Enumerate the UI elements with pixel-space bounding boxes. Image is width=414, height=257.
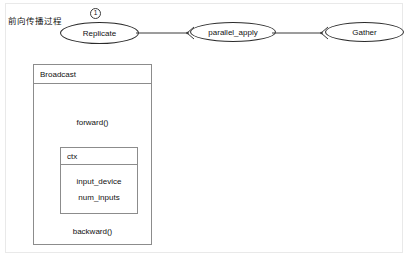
- node-replicate-label: Replicate: [83, 29, 116, 38]
- flow-caption: 前向传播过程: [8, 16, 62, 27]
- node-parallel-apply[interactable]: parallel_apply: [190, 22, 276, 42]
- step-badge-replicate: 1: [90, 8, 101, 19]
- ctx-field-input-device: input_device: [61, 174, 137, 190]
- node-parallel-apply-label: parallel_apply: [208, 28, 257, 37]
- ctx-box-title: ctx: [67, 152, 77, 161]
- ctx-field-num-inputs: num_inputs: [61, 190, 137, 206]
- broadcast-class-header: Broadcast: [34, 65, 151, 84]
- arrow-parallel-apply-to-gather: [272, 26, 328, 40]
- forward-method-label: forward(): [34, 118, 151, 127]
- node-gather[interactable]: Gather: [325, 22, 404, 42]
- node-replicate[interactable]: Replicate: [60, 22, 139, 44]
- ctx-box[interactable]: ctx input_device num_inputs: [60, 147, 138, 214]
- arrow-replicate-to-parallel-apply: [136, 26, 194, 40]
- backward-method-label: backward(): [34, 227, 151, 236]
- broadcast-class-title: Broadcast: [40, 70, 76, 79]
- broadcast-class-body: 1 forward() ctx input_device num_inputs …: [34, 84, 151, 244]
- ctx-field-list: input_device num_inputs: [61, 165, 137, 206]
- ctx-box-header: ctx: [61, 148, 137, 165]
- node-gather-label: Gather: [352, 28, 376, 37]
- broadcast-class-box[interactable]: Broadcast 1 forward() ctx input_device n…: [33, 64, 152, 245]
